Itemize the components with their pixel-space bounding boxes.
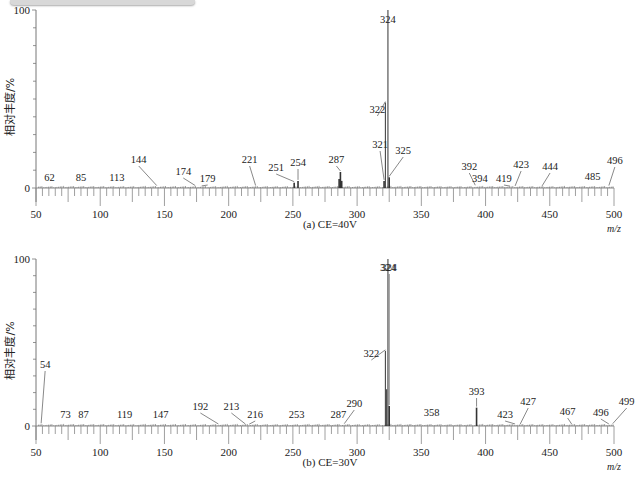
peak-label-192: 192 xyxy=(193,401,209,412)
peak-label-423: 423 xyxy=(497,409,513,420)
mass-spectrum-chart-b: 1000相对丰度/%50100150200250300350400450500m… xyxy=(0,0,635,478)
x-tick-label: 400 xyxy=(477,446,494,458)
x-tick-label: 150 xyxy=(156,446,173,458)
x-tick-label: 250 xyxy=(285,446,302,458)
peak-label-393: 393 xyxy=(469,386,485,397)
peak-label-427: 427 xyxy=(520,396,536,407)
peak-label-496: 496 xyxy=(593,407,609,418)
peak-label-147: 147 xyxy=(153,409,169,420)
peak-label-322: 322 xyxy=(363,348,379,359)
x-axis-unit: m/z xyxy=(607,461,621,472)
chart-caption: (b) CE=30V xyxy=(303,456,358,469)
x-tick-label: 200 xyxy=(220,446,237,458)
y-tick-100: 100 xyxy=(14,253,31,265)
peak-label-358: 358 xyxy=(424,407,440,418)
x-tick-label: 100 xyxy=(92,446,109,458)
x-tick-label: 50 xyxy=(31,446,43,458)
y-axis-label: 相对丰度/% xyxy=(3,321,17,379)
peak-label-213: 213 xyxy=(223,401,239,412)
peak-label-499: 499 xyxy=(619,396,635,407)
peak-label-119: 119 xyxy=(117,409,132,420)
peak-label-325: 324 xyxy=(381,262,398,273)
peak-label-253: 253 xyxy=(289,409,305,420)
peak-label-54: 54 xyxy=(40,359,51,370)
peak-label-73: 73 xyxy=(60,409,71,420)
peak-label-287: 287 xyxy=(331,409,347,420)
peak-label-87: 87 xyxy=(78,409,89,420)
peak-label-216: 216 xyxy=(247,409,263,420)
x-tick-label: 450 xyxy=(542,446,559,458)
y-tick-0: 0 xyxy=(25,420,31,432)
x-tick-label: 500 xyxy=(606,446,623,458)
peak-label-290: 290 xyxy=(346,398,362,409)
x-tick-label: 350 xyxy=(413,446,430,458)
peak-label-467: 467 xyxy=(560,406,576,417)
